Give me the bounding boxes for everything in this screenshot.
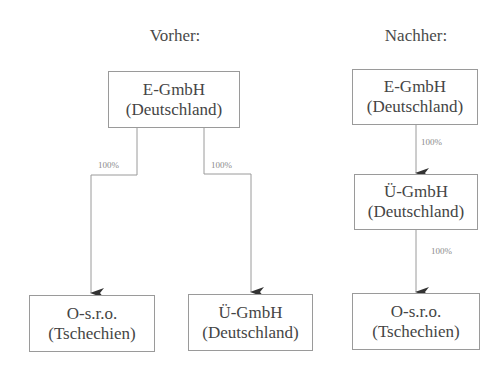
after-title: Nachher:: [370, 26, 462, 46]
entity-name: O-s.r.o.: [391, 302, 442, 322]
before-child-box-osro: O-s.r.o. (Tschechien): [29, 295, 155, 352]
share-label: 100%: [431, 246, 452, 256]
after-top-box: E-GmbH (Deutschland): [352, 69, 478, 125]
share-label: 100%: [211, 160, 232, 170]
share-label: 100%: [421, 137, 442, 147]
entity-name: Ü-GmbH: [384, 182, 448, 202]
entity-country: (Deutschland): [202, 323, 298, 343]
entity-name: E-GmbH: [143, 80, 205, 100]
entity-name: O-s.r.o.: [67, 304, 118, 324]
entity-name: Ü-GmbH: [218, 303, 282, 323]
before-parent-box: E-GmbH (Deutschland): [108, 71, 240, 128]
entity-country: (Tschechien): [372, 322, 460, 342]
entity-country: (Deutschland): [126, 100, 222, 120]
share-label: 100%: [98, 160, 119, 170]
entity-name: E-GmbH: [384, 77, 446, 97]
entity-country: (Deutschland): [368, 202, 464, 222]
entity-country: (Deutschland): [367, 97, 463, 117]
after-bottom-box: O-s.r.o. (Tschechien): [352, 293, 480, 350]
before-child-box-ugmbh: Ü-GmbH (Deutschland): [188, 294, 313, 351]
before-title: Vorher:: [130, 26, 220, 46]
entity-country: (Tschechien): [48, 324, 136, 344]
after-middle-box: Ü-GmbH (Deutschland): [354, 174, 478, 230]
